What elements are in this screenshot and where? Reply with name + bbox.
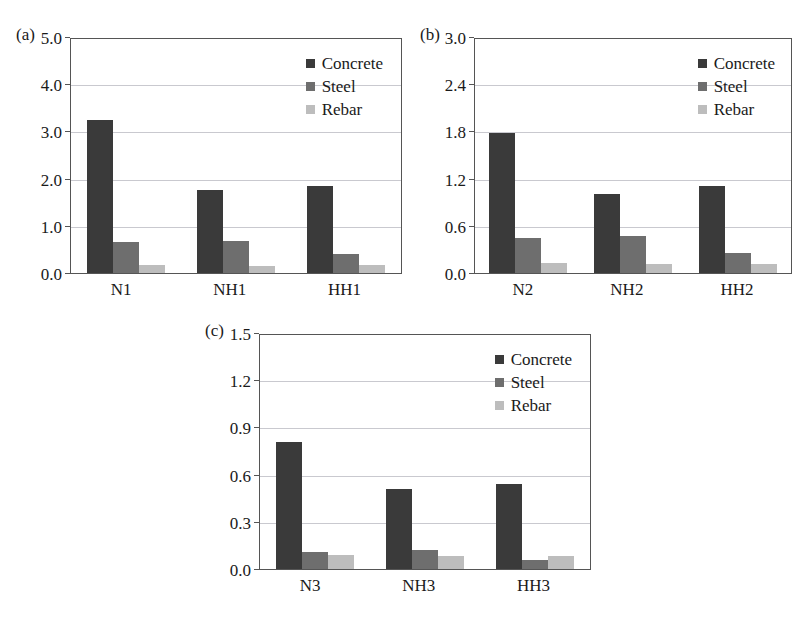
y-axis-tick-label: 1.8 [445, 124, 466, 141]
bar-nh3-concrete [386, 489, 412, 569]
y-axis-tickmark [65, 131, 70, 132]
bar-group-n1 [87, 39, 165, 273]
y-axis-tick-label: 0.9 [230, 420, 251, 437]
y-axis-tickmark [254, 333, 259, 334]
legend: ConcreteSteelRebar [495, 349, 572, 415]
bar-n2-steel [515, 238, 541, 273]
y-axis-tick-label: 1.2 [230, 373, 251, 390]
x-axis-tick-label: NH1 [213, 274, 246, 298]
y-axis-tickmark [254, 475, 259, 476]
y-axis-tick-labels: 1.51.20.90.60.30.0 [213, 334, 251, 570]
bar-n3-steel [302, 552, 328, 569]
y-axis-tickmark [254, 522, 259, 523]
y-axis-tick-label: 1.2 [445, 171, 466, 188]
bar-nh1-concrete [197, 190, 223, 273]
plot-area: ConcreteSteelRebar [474, 38, 792, 274]
bar-hh1-rebar [359, 265, 385, 273]
bar-n1-rebar [139, 265, 165, 273]
y-axis-tick-label: 5.0 [41, 30, 62, 47]
legend-swatch-icon [698, 82, 707, 91]
y-axis-tickmark [469, 226, 474, 227]
legend-item-rebar: Rebar [698, 99, 775, 119]
bar-hh2-concrete [699, 186, 725, 273]
bar-group-nh2 [594, 39, 672, 273]
x-axis-tick-labels: N1NH1HH1 [70, 274, 402, 300]
chart-a: 5.04.03.02.01.00.0ConcreteSteelRebarN1NH… [16, 26, 408, 316]
bar-nh2-concrete [594, 194, 620, 273]
legend-label: Steel [511, 374, 545, 391]
x-axis-tick-label: HH2 [720, 274, 753, 298]
legend-item-steel: Steel [698, 76, 775, 96]
legend: ConcreteSteelRebar [306, 53, 383, 119]
y-axis-tickmark [65, 179, 70, 180]
bar-hh2-steel [725, 253, 751, 273]
y-axis-tickmark [469, 84, 474, 85]
legend-swatch-icon [306, 82, 315, 91]
bar-group-n3 [276, 335, 354, 569]
y-axis-tick-label: 0.6 [230, 467, 251, 484]
bar-hh2-rebar [751, 264, 777, 273]
chart-c: 1.51.20.90.60.30.0ConcreteSteelRebarN3NH… [205, 322, 605, 618]
y-axis-tickmark [469, 131, 474, 132]
y-axis-tick-label: 2.4 [445, 77, 466, 94]
legend-swatch-icon [495, 378, 504, 387]
y-axis-tick-label: 3.0 [41, 124, 62, 141]
legend-item-concrete: Concrete [495, 349, 572, 369]
legend-swatch-icon [698, 59, 707, 68]
y-axis-tick-label: 0.0 [445, 266, 466, 283]
x-axis-tick-labels: N2NH2HH2 [474, 274, 792, 300]
y-axis-tick-label: 3.0 [445, 30, 466, 47]
y-axis-tick-labels: 3.02.41.81.20.60.0 [428, 38, 466, 274]
legend-swatch-icon [495, 401, 504, 410]
chart-panel-c: (c) 1.51.20.90.60.30.0ConcreteSteelRebar… [205, 322, 605, 618]
x-axis-tick-label: N1 [111, 274, 132, 298]
legend-swatch-icon [495, 355, 504, 364]
legend-label: Rebar [714, 101, 755, 118]
legend-item-rebar: Rebar [495, 395, 572, 415]
bar-hh3-rebar [548, 556, 574, 569]
legend-label: Concrete [511, 351, 572, 368]
y-axis-tickmark [469, 179, 474, 180]
bar-group-nh3 [386, 335, 464, 569]
legend-swatch-icon [698, 105, 707, 114]
legend-item-steel: Steel [495, 372, 572, 392]
bar-nh3-steel [412, 550, 438, 569]
bar-nh1-steel [223, 241, 249, 273]
x-axis-tick-label: HH3 [517, 570, 550, 594]
bar-n2-rebar [541, 263, 567, 273]
bar-nh2-rebar [646, 264, 672, 273]
y-axis-tickmark [65, 37, 70, 38]
y-axis-tickmark [254, 380, 259, 381]
bar-hh3-concrete [496, 484, 522, 569]
legend-item-rebar: Rebar [306, 99, 383, 119]
legend-label: Concrete [714, 55, 775, 72]
legend: ConcreteSteelRebar [698, 53, 775, 119]
bar-nh3-rebar [438, 556, 464, 569]
x-axis-tick-label: N2 [513, 274, 534, 298]
figure-root: (a) 5.04.03.02.01.00.0ConcreteSteelRebar… [0, 0, 810, 628]
legend-label: Rebar [322, 101, 363, 118]
legend-label: Steel [322, 78, 356, 95]
x-axis-tick-labels: N3NH3HH3 [259, 570, 591, 596]
y-axis-tick-label: 1.0 [41, 218, 62, 235]
bar-n3-concrete [276, 442, 302, 569]
plot-area: ConcreteSteelRebar [70, 38, 402, 274]
bar-nh2-steel [620, 236, 646, 273]
bar-hh3-steel [522, 560, 548, 569]
plot-area: ConcreteSteelRebar [259, 334, 591, 570]
chart-panel-a: (a) 5.04.03.02.01.00.0ConcreteSteelRebar… [16, 26, 408, 316]
bar-n2-concrete [489, 133, 515, 273]
chart-panel-b: (b) 3.02.41.81.20.60.0ConcreteSteelRebar… [420, 26, 798, 316]
y-axis-tickmark [65, 226, 70, 227]
legend-swatch-icon [306, 105, 315, 114]
chart-b: 3.02.41.81.20.60.0ConcreteSteelRebarN2NH… [420, 26, 798, 316]
legend-item-concrete: Concrete [306, 53, 383, 73]
bar-n1-concrete [87, 120, 113, 273]
x-axis-tick-label: NH3 [402, 570, 435, 594]
y-axis-tick-label: 0.6 [445, 218, 466, 235]
legend-label: Rebar [511, 397, 552, 414]
y-axis-tick-label: 0.3 [230, 514, 251, 531]
y-axis-tickmark [65, 84, 70, 85]
y-axis-tick-label: 0.0 [41, 266, 62, 283]
legend-item-concrete: Concrete [698, 53, 775, 73]
